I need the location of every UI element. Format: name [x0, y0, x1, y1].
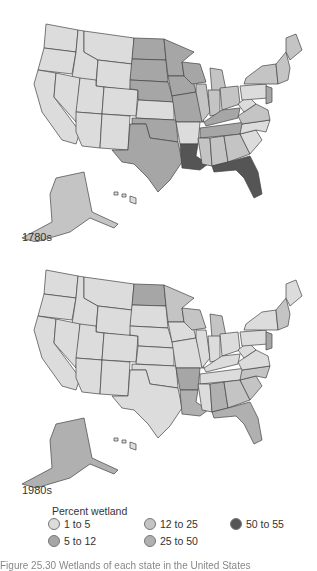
- state-co: [102, 87, 138, 116]
- state-ar: [176, 122, 200, 144]
- legend-swatch: [144, 535, 156, 547]
- state-nd: [132, 284, 166, 306]
- state-co: [102, 333, 138, 362]
- legend-swatch: [48, 518, 60, 530]
- legend-swatch: [144, 518, 156, 530]
- legend-label: 50 to 55: [246, 518, 284, 530]
- legend-swatch: [48, 535, 60, 547]
- state-ny: [244, 310, 278, 330]
- state-ak: [22, 418, 118, 488]
- legend-item-12-to-25: 12 to 25: [144, 518, 198, 530]
- legend-item-5-to-12: 5 to 12: [48, 535, 96, 547]
- state-pa: [240, 84, 268, 100]
- state-oh: [220, 86, 240, 110]
- state-oh: [220, 332, 240, 356]
- state-wa: [44, 24, 78, 52]
- state-ks: [136, 346, 174, 366]
- legend-item-1-to-5: 1 to 5: [48, 518, 90, 530]
- state-wa: [44, 270, 78, 298]
- state-wy: [96, 306, 132, 336]
- state-nj-md-de: [266, 86, 272, 104]
- legend-label: 25 to 50: [160, 535, 198, 547]
- figure-caption: Figure 25.30 Wetlands of each state in t…: [0, 560, 251, 571]
- state-hi: [114, 192, 136, 204]
- state-az: [76, 112, 102, 148]
- state-new-england: [276, 52, 290, 84]
- legend-label: 5 to 12: [64, 535, 96, 547]
- map-1980s: [0, 258, 317, 488]
- map-label-1980s: 1980s: [22, 484, 52, 496]
- state-wy: [96, 60, 132, 90]
- state-or: [38, 48, 76, 74]
- legend-label: 1 to 5: [64, 518, 90, 530]
- state-in: [208, 90, 220, 116]
- state-in: [208, 336, 220, 362]
- us-map-1780s: [0, 12, 317, 242]
- state-or: [38, 294, 76, 320]
- state-new-england: [276, 298, 290, 330]
- state-nd: [132, 38, 166, 60]
- state-me: [286, 280, 302, 306]
- map-label-1780s: 1780s: [22, 231, 52, 243]
- state-pa: [240, 330, 268, 346]
- state-nm: [100, 114, 130, 150]
- us-map-1980s: [0, 258, 317, 488]
- state-me: [286, 34, 302, 60]
- state-nj-md-de: [266, 332, 272, 350]
- state-ny: [244, 64, 278, 84]
- legend-item-25-to-50: 25 to 50: [144, 535, 198, 547]
- state-hi: [114, 438, 136, 450]
- state-sd: [130, 305, 168, 328]
- state-ks: [136, 100, 174, 120]
- state-nm: [100, 360, 130, 396]
- map-1780s: [0, 12, 317, 242]
- legend-title: Percent wetland: [52, 505, 127, 517]
- legend-swatch: [230, 518, 242, 530]
- state-az: [76, 358, 102, 394]
- state-ar: [176, 368, 200, 390]
- state-sd: [130, 59, 168, 82]
- legend-item-50-to-55: 50 to 55: [230, 518, 284, 530]
- legend-label: 12 to 25: [160, 518, 198, 530]
